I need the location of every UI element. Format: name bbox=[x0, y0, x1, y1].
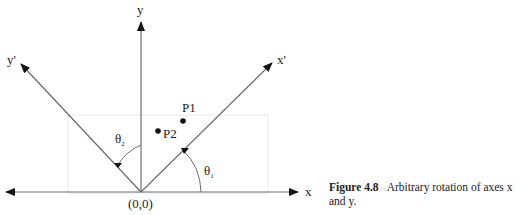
theta2-label: θ2 bbox=[115, 131, 125, 148]
y-prime-axis bbox=[21, 64, 141, 192]
figure-number: Figure 4.8 bbox=[329, 181, 379, 193]
theta1-label: θ1 bbox=[204, 163, 214, 180]
y-axis-label: y bbox=[137, 2, 144, 17]
theta2-arrow-icon bbox=[114, 163, 122, 168]
point-p2 bbox=[155, 128, 161, 134]
theta2-arc bbox=[118, 145, 141, 165]
caption-text-line1: Arbitrary rotation of axes x bbox=[387, 181, 513, 193]
x-axis-label: x bbox=[305, 184, 312, 199]
figure-caption: Figure 4.8Arbitrary rotation of axes x a… bbox=[329, 180, 519, 208]
point-p1 bbox=[180, 118, 186, 124]
origin-label: (0,0) bbox=[128, 196, 153, 211]
x-prime-label: x' bbox=[277, 52, 286, 67]
p1-label: P1 bbox=[182, 100, 196, 115]
caption-text-line2: and y. bbox=[329, 195, 356, 207]
y-prime-label: y' bbox=[7, 52, 16, 67]
theta1-arc bbox=[183, 150, 201, 192]
p2-label: P2 bbox=[163, 126, 177, 141]
